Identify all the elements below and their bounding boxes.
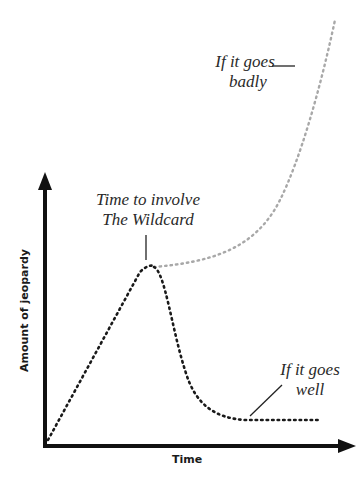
x-axis-arrow-icon (338, 439, 356, 453)
chart-canvas (0, 0, 362, 489)
bad-annotation: If it goes badly (210, 52, 280, 92)
bad-annotation-line2: badly (210, 72, 280, 92)
y-axis-label: Amount of jeopardy (18, 249, 31, 372)
peak-annotation-line2: The Wildcard (88, 210, 208, 230)
good-annotation-line1: If it goes (270, 360, 350, 380)
bad-annotation-line1: If it goes (210, 52, 280, 72)
rise-curve (48, 266, 154, 440)
x-axis-label: Time (172, 453, 202, 466)
y-axis-arrow-icon (38, 172, 52, 190)
peak-annotation: Time to involve The Wildcard (88, 190, 208, 230)
good-annotation-line2: well (270, 380, 350, 400)
peak-annotation-line1: Time to involve (88, 190, 208, 210)
good-annotation: If it goes well (270, 360, 350, 400)
